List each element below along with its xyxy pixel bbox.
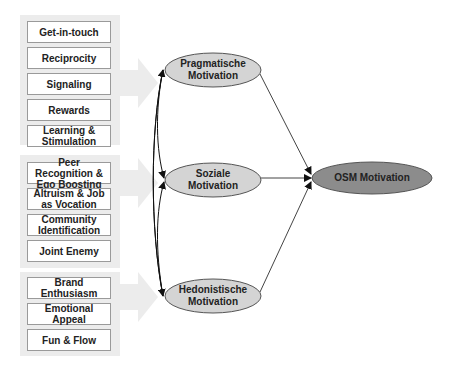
node-hedonic-label: Hedonistische Motivation bbox=[165, 284, 261, 308]
node-pragmatic-line1: Pragmatische bbox=[180, 58, 246, 70]
node-osm-label: OSM Motivation bbox=[312, 170, 432, 186]
node-social-line1: Soziale bbox=[196, 168, 230, 180]
node-hedonic-line1: Hedonistische bbox=[179, 284, 247, 296]
node-pragmatic-line2: Motivation bbox=[188, 70, 238, 82]
node-social-line2: Motivation bbox=[188, 180, 238, 192]
node-social-label: Soziale Motivation bbox=[165, 168, 261, 192]
node-hedonic-line2: Motivation bbox=[188, 296, 238, 308]
node-pragmatic-label: Pragmatische Motivation bbox=[165, 58, 261, 82]
